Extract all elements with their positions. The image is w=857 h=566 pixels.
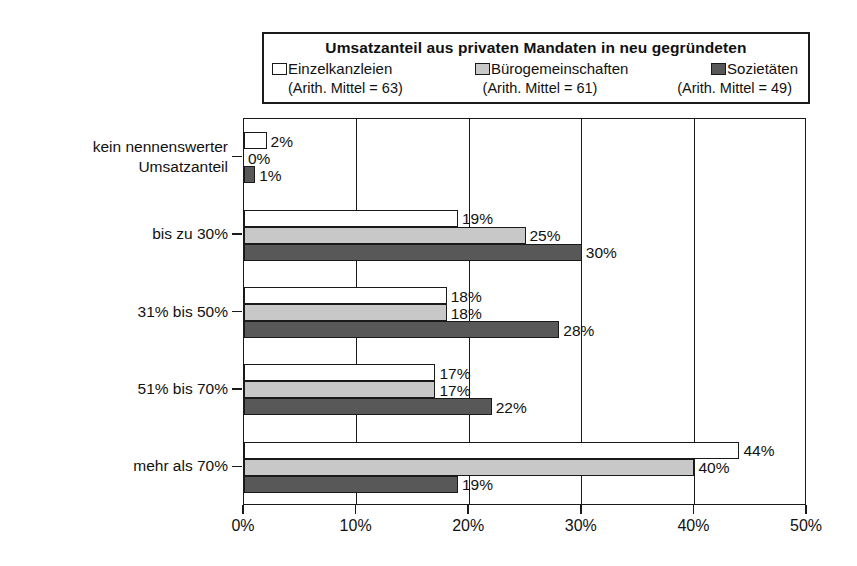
bar[interactable] bbox=[244, 398, 492, 415]
bar-value-label: 17% bbox=[435, 381, 470, 398]
legend-box: Umsatzanteil aus privaten Mandaten in ne… bbox=[262, 32, 810, 104]
bar[interactable] bbox=[244, 442, 739, 459]
legend-mean-0: (Arith. Mittel = 63) bbox=[288, 79, 403, 97]
legend-entry-einzelkanzleien: Einzelkanzleien bbox=[272, 60, 392, 77]
legend-means-row: (Arith. Mittel = 63) (Arith. Mittel = 61… bbox=[270, 79, 802, 97]
bar-value-label: 22% bbox=[492, 398, 527, 415]
x-axis-tick-0 bbox=[242, 505, 244, 514]
y-axis-tick-1 bbox=[232, 233, 242, 235]
bar-value-label: 1% bbox=[255, 166, 281, 183]
bar[interactable] bbox=[244, 287, 447, 304]
bar-value-label: 17% bbox=[435, 364, 470, 381]
bar-row: 19% bbox=[244, 476, 807, 493]
bar[interactable] bbox=[244, 321, 559, 338]
x-axis-label-10: 10% bbox=[340, 516, 372, 535]
bar[interactable] bbox=[244, 210, 458, 227]
category-label-0: kein nennenswerterUmsatzanteil bbox=[93, 137, 228, 177]
legend-swatch-icon-0 bbox=[272, 63, 287, 75]
bar-value-label: 28% bbox=[559, 321, 594, 338]
bar-value-label: 40% bbox=[694, 459, 729, 476]
bar[interactable] bbox=[244, 244, 582, 261]
bar-row: 28% bbox=[244, 321, 807, 338]
category-label-line: 51% bis 70% bbox=[138, 379, 228, 399]
bar-row: 44% bbox=[244, 442, 807, 459]
y-axis-labels: kein nennenswerterUmsatzanteilbis zu 30%… bbox=[0, 118, 228, 505]
category-label-1: bis zu 30% bbox=[152, 224, 228, 244]
category-label-2: 31% bis 50% bbox=[138, 302, 228, 322]
bar-row: 22% bbox=[244, 398, 807, 415]
category-label-line: bis zu 30% bbox=[152, 224, 228, 244]
bar-value-label: 19% bbox=[458, 210, 493, 227]
x-axis-tick-50 bbox=[805, 505, 807, 514]
bar-row: 17% bbox=[244, 381, 807, 398]
x-axis-label-50: 50% bbox=[790, 516, 822, 535]
x-axis-label-20: 20% bbox=[452, 516, 484, 535]
category-label-line: mehr als 70% bbox=[133, 456, 228, 476]
bar-value-label: 18% bbox=[447, 287, 482, 304]
legend-swatch-icon-1 bbox=[475, 63, 490, 75]
x-axis-tick-10 bbox=[355, 505, 357, 514]
legend-series-row: Einzelkanzleien Bürogemeinschaften Sozie… bbox=[270, 60, 802, 77]
plot-area: 2%0%1%19%25%30%18%18%28%17%17%22%44%40%1… bbox=[243, 118, 806, 505]
x-axis-tick-20 bbox=[467, 505, 469, 514]
bar[interactable] bbox=[244, 459, 694, 476]
chart-title: Umsatzanteil aus privaten Mandaten in ne… bbox=[270, 38, 802, 57]
legend-swatch-icon-2 bbox=[711, 63, 726, 75]
y-axis-tick-4 bbox=[232, 466, 242, 468]
legend-label-2: Sozietäten bbox=[727, 60, 798, 77]
bar-value-label: 2% bbox=[267, 132, 293, 149]
bar-row: 18% bbox=[244, 287, 807, 304]
bar-value-label: 30% bbox=[582, 244, 617, 261]
category-label-line: 31% bis 50% bbox=[138, 302, 228, 322]
bar-row: 30% bbox=[244, 244, 807, 261]
legend-label-0: Einzelkanzleien bbox=[288, 60, 392, 77]
bar-row: 18% bbox=[244, 304, 807, 321]
legend-label-1: Bürogemeinschaften bbox=[491, 60, 629, 77]
legend-entry-buerogemeinschaften: Bürogemeinschaften bbox=[475, 60, 629, 77]
y-axis-tick-3 bbox=[232, 388, 242, 390]
x-axis-label-30: 30% bbox=[565, 516, 597, 535]
bar-row: 0% bbox=[244, 149, 807, 166]
bar[interactable] bbox=[244, 364, 435, 381]
bar[interactable] bbox=[244, 132, 267, 149]
x-axis-label-0: 0% bbox=[231, 516, 254, 535]
bar-row: 17% bbox=[244, 364, 807, 381]
legend-mean-2: (Arith. Mittel = 49) bbox=[677, 79, 792, 97]
legend-entry-sozietaeten: Sozietäten bbox=[711, 60, 798, 77]
x-axis-tick-40 bbox=[693, 505, 695, 514]
bar[interactable] bbox=[244, 227, 526, 244]
bar[interactable] bbox=[244, 166, 255, 183]
category-label-line: Umsatzanteil bbox=[93, 157, 228, 177]
legend-mean-1: (Arith. Mittel = 61) bbox=[483, 79, 598, 97]
category-label-4: mehr als 70% bbox=[133, 456, 228, 476]
bar-row: 40% bbox=[244, 459, 807, 476]
bar[interactable] bbox=[244, 476, 458, 493]
bar-value-label: 44% bbox=[739, 442, 774, 459]
bar-row: 1% bbox=[244, 166, 807, 183]
bar-value-label: 19% bbox=[458, 476, 493, 493]
bar-value-label: 0% bbox=[244, 149, 270, 166]
category-label-3: 51% bis 70% bbox=[138, 379, 228, 399]
bar[interactable] bbox=[244, 304, 447, 321]
bar[interactable] bbox=[244, 381, 435, 398]
y-axis-tick-0 bbox=[232, 156, 242, 158]
bar-value-label: 18% bbox=[447, 304, 482, 321]
bar-row: 25% bbox=[244, 227, 807, 244]
x-axis-label-40: 40% bbox=[677, 516, 709, 535]
y-axis-tick-2 bbox=[232, 311, 242, 313]
bar-row: 19% bbox=[244, 210, 807, 227]
bar-row: 2% bbox=[244, 132, 807, 149]
bar-value-label: 25% bbox=[526, 227, 561, 244]
category-label-line: kein nennenswerter bbox=[93, 137, 228, 157]
x-axis-tick-30 bbox=[580, 505, 582, 514]
